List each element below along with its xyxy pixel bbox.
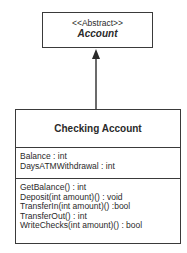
checking-account-class-box: Checking Account Balance : int DaysATMWi… — [15, 109, 181, 244]
attribute: DaysATMWithdrawal : int — [20, 162, 180, 172]
stereotype-label: <<Abstract>> — [43, 18, 152, 28]
abstract-class-name: Account — [43, 28, 152, 40]
class-name: Checking Account — [16, 110, 180, 148]
operation: WriteChecks(int amount)() : bool — [20, 221, 180, 231]
abstract-class-box: <<Abstract>> Account — [42, 12, 153, 48]
attributes-section: Balance : int DaysATMWithdrawal : int — [16, 148, 180, 179]
operations-section: GetBalance() : int Deposit(int amount)()… — [16, 179, 180, 231]
